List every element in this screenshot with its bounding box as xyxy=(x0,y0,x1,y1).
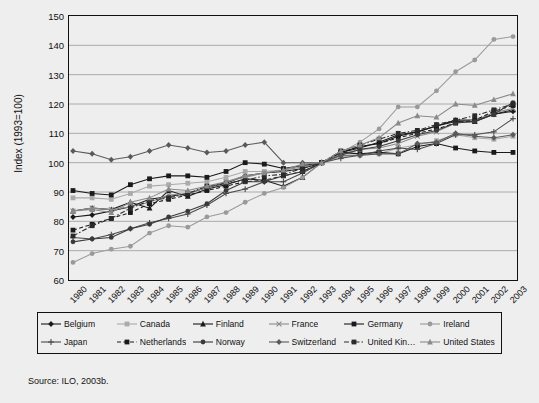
y-tick-130: 130 xyxy=(34,69,64,80)
legend-marker-circle-icon xyxy=(193,336,213,348)
legend-label: France xyxy=(292,319,319,329)
figure-root: Index (1993=100) 15014013012011010090807… xyxy=(0,0,539,403)
y-tick-70: 70 xyxy=(34,245,64,256)
legend-marker-square-icon xyxy=(117,336,137,348)
legend-item-switzerland[interactable]: Switzerland xyxy=(269,333,345,351)
y-tick-60: 60 xyxy=(34,275,64,286)
legend-marker-square-icon xyxy=(344,336,364,348)
y-tick-90: 90 xyxy=(34,187,64,198)
legend-item-france[interactable]: France xyxy=(269,315,345,333)
y-axis-title: Index (1993=100) xyxy=(13,34,24,234)
y-axis-tick-labels: 15014013012011010090807060 xyxy=(30,15,64,281)
series-switzerland xyxy=(70,130,516,165)
legend-item-ireland[interactable]: Ireland xyxy=(420,315,496,333)
legend-item-finland[interactable]: Finland xyxy=(193,315,269,333)
y-tick-120: 120 xyxy=(34,99,64,110)
y-tick-110: 110 xyxy=(34,128,64,139)
source-note: Source: ILO, 2003b. xyxy=(28,376,109,386)
series-united-states xyxy=(70,91,516,215)
legend-label: Norway xyxy=(216,337,245,347)
legend-marker-diamond-icon xyxy=(269,336,289,348)
legend-item-belgium[interactable]: Belgium xyxy=(41,315,117,333)
legend-label: United States xyxy=(443,337,495,347)
legend-item-united-kingdom[interactable]: United Kingdom xyxy=(344,333,420,351)
legend-label: Ireland xyxy=(443,319,469,329)
legend-marker-triangle-icon xyxy=(193,318,213,330)
legend-label: Canada xyxy=(140,319,170,329)
legend-item-japan[interactable]: Japan xyxy=(41,333,117,351)
legend-item-norway[interactable]: Norway xyxy=(193,333,269,351)
legend-item-canada[interactable]: Canada xyxy=(117,315,193,333)
series-japan xyxy=(70,116,516,242)
legend-label: Switzerland xyxy=(292,337,336,347)
chart-canvas xyxy=(69,16,517,280)
series-finland xyxy=(70,107,516,214)
legend-label: United Kingdom xyxy=(367,337,420,347)
legend-marker-square-icon xyxy=(344,318,364,330)
y-tick-140: 140 xyxy=(34,40,64,51)
legend-item-netherlands[interactable]: Netherlands xyxy=(117,333,193,351)
legend-marker-triangle-icon xyxy=(420,336,440,348)
series-ireland xyxy=(71,34,516,265)
legend-label: Belgium xyxy=(64,319,95,329)
legend-label: Japan xyxy=(64,337,87,347)
legend-label: Germany xyxy=(367,319,402,329)
legend-marker-x-icon xyxy=(269,318,289,330)
series-germany xyxy=(71,141,516,197)
chart-legend: BelgiumCanadaFinlandFranceGermanyIreland… xyxy=(37,312,502,354)
legend-label: Netherlands xyxy=(140,337,186,347)
y-tick-100: 100 xyxy=(34,157,64,168)
legend-item-germany[interactable]: Germany xyxy=(344,315,420,333)
legend-item-united-states[interactable]: United States xyxy=(420,333,496,351)
y-tick-150: 150 xyxy=(34,11,64,22)
legend-label: Finland xyxy=(216,319,244,329)
y-tick-80: 80 xyxy=(34,216,64,227)
legend-marker-circle-icon xyxy=(420,318,440,330)
legend-marker-plus-icon xyxy=(41,336,61,348)
plot-area xyxy=(68,15,518,281)
legend-marker-diamond-icon xyxy=(41,318,61,330)
legend-marker-square-icon xyxy=(117,318,137,330)
